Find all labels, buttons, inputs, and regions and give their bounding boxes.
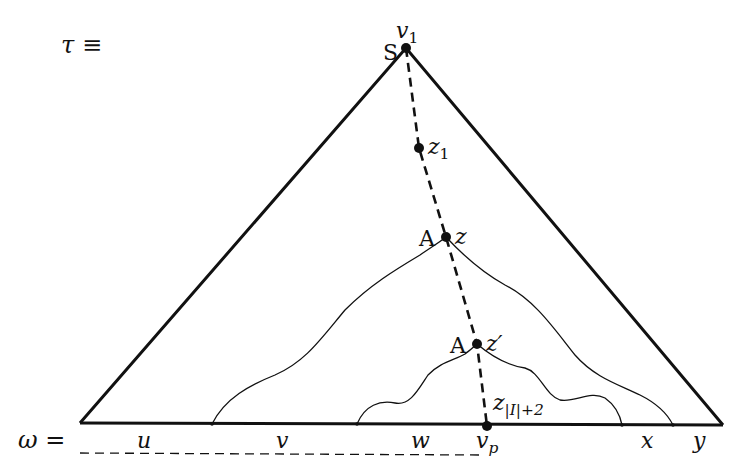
base-tick-w-start (355, 422, 359, 426)
zlast-label-base: z (493, 390, 505, 415)
z-label-text: z (455, 224, 467, 249)
mark-a-zprime: A (450, 333, 466, 358)
vp-label-sub: p (488, 439, 498, 457)
node-z-mark: A (419, 228, 435, 250)
zprime-label-text: z′ (486, 331, 503, 356)
node-v1-label: v1 (396, 20, 418, 47)
node-zprime-mark: A (450, 335, 466, 357)
z1-label-sub: 1 (440, 145, 450, 163)
prefix-underline (80, 453, 480, 455)
zlast-label-sub: |I|+2 (505, 401, 544, 419)
node-zprime-label: z′ (486, 333, 503, 355)
vp-label-base: v (476, 428, 488, 453)
tree-diagram: τ ≡ ω = S v1 z1 A z A z′ z|I|+2 vp u v w… (0, 0, 739, 467)
node-zlast-label: z|I|+2 (493, 392, 544, 419)
base-tick-x-start (620, 423, 624, 427)
word-label-text: ω = (18, 426, 65, 454)
tree-label-text: τ ≡ (61, 31, 102, 59)
node-z-label: z (455, 226, 467, 248)
tree-label: τ ≡ (61, 33, 102, 57)
segment-y-label: y (693, 430, 705, 452)
subtree-zprime-outline (357, 344, 622, 425)
node-z (441, 232, 451, 242)
segment-v-label: v (276, 430, 288, 452)
segment-x-label: x (641, 430, 653, 452)
z1-label-base: z (428, 134, 440, 159)
node-zprime (472, 339, 482, 349)
node-z1-label: z1 (428, 136, 449, 163)
v1-label-sub: 1 (408, 29, 418, 47)
segment-u-label: u (137, 430, 151, 452)
segment-w-label: w (411, 430, 430, 452)
base-line (80, 423, 723, 425)
diagram-canvas (0, 0, 739, 467)
node-vp-label: vp (476, 430, 498, 457)
mark-a-z: A (419, 226, 435, 251)
base-tick-x-end (671, 423, 675, 427)
outer-triangle (80, 48, 723, 425)
node-z1 (414, 143, 424, 153)
v1-label-base: v (396, 18, 408, 43)
word-label: ω = (18, 428, 65, 452)
base-tick-v-start (210, 422, 214, 426)
